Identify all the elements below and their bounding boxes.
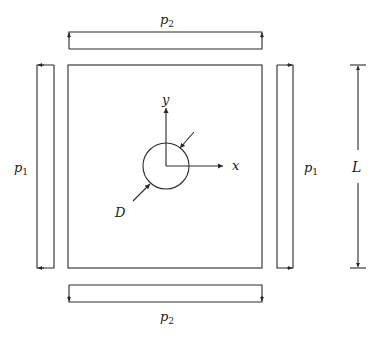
bottom-load-p2: p2 <box>69 285 262 326</box>
dimension-L: L <box>350 65 366 268</box>
right-load-label: p1 <box>304 160 318 177</box>
dimension-label: L <box>351 159 361 175</box>
plate-with-hole-diagram: p2 p2 p1 p1 L <box>0 0 379 337</box>
right-load-p1: p1 <box>277 65 318 268</box>
left-load-p1: p1 <box>14 65 54 268</box>
left-load-label: p1 <box>14 160 28 177</box>
y-axis-label: y <box>161 92 170 107</box>
top-load-label: p2 <box>160 12 174 29</box>
diameter-indicator: D <box>114 132 194 220</box>
x-axis-label: x <box>232 158 240 173</box>
bottom-load-label: p2 <box>160 309 174 326</box>
coordinate-axes: y x <box>161 92 240 173</box>
diameter-label: D <box>114 205 126 220</box>
top-load-p2: p2 <box>69 12 262 49</box>
